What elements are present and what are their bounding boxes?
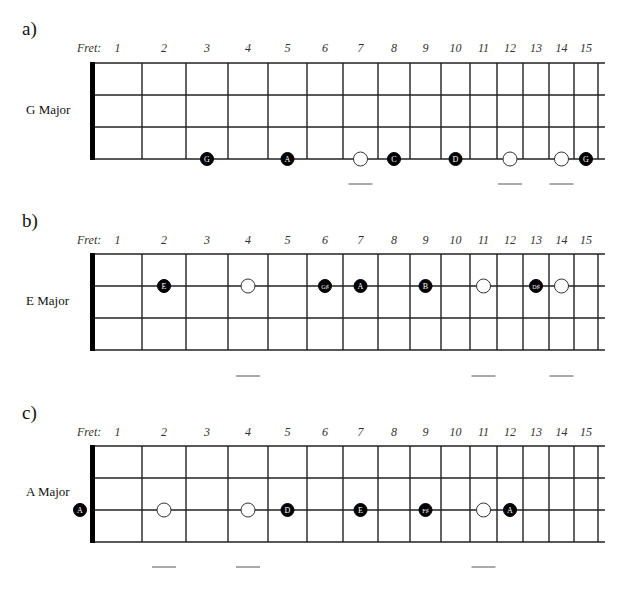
note-label: F♯ (422, 508, 428, 514)
empty-note-circle (241, 503, 255, 517)
note-label: D (285, 506, 291, 515)
fretboard: ADEF♯A (0, 0, 642, 593)
note-label: A (507, 506, 513, 515)
note-label: E (358, 506, 363, 515)
empty-note-circle (157, 503, 171, 517)
nut (90, 445, 95, 543)
empty-note-circle (477, 503, 491, 517)
note-label: A (77, 506, 83, 515)
